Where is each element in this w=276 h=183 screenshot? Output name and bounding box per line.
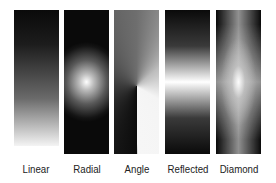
radial-gradient-swatch xyxy=(64,10,109,154)
reflected-label: Reflected xyxy=(162,163,215,175)
radial-label: Radial xyxy=(61,163,114,175)
angle-gradient-swatch xyxy=(114,10,159,154)
reflected-gradient-swatch xyxy=(165,10,210,154)
diamond-gradient-swatch xyxy=(216,10,261,154)
angle-label: Angle xyxy=(111,163,164,175)
linear-label: Linear xyxy=(10,163,63,175)
diamond-label: Diamond xyxy=(213,163,266,175)
linear-gradient-swatch xyxy=(14,10,59,146)
